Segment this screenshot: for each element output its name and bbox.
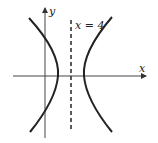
dashed-line-label: x = 4: [75, 19, 104, 32]
hyperbola-figure: y x x = 4: [0, 0, 158, 143]
hyperbola-right-branch: [84, 17, 112, 132]
y-axis-label: y: [48, 5, 56, 18]
x-axis-label: x: [139, 62, 146, 75]
hyperbola-left-branch: [29, 18, 58, 132]
